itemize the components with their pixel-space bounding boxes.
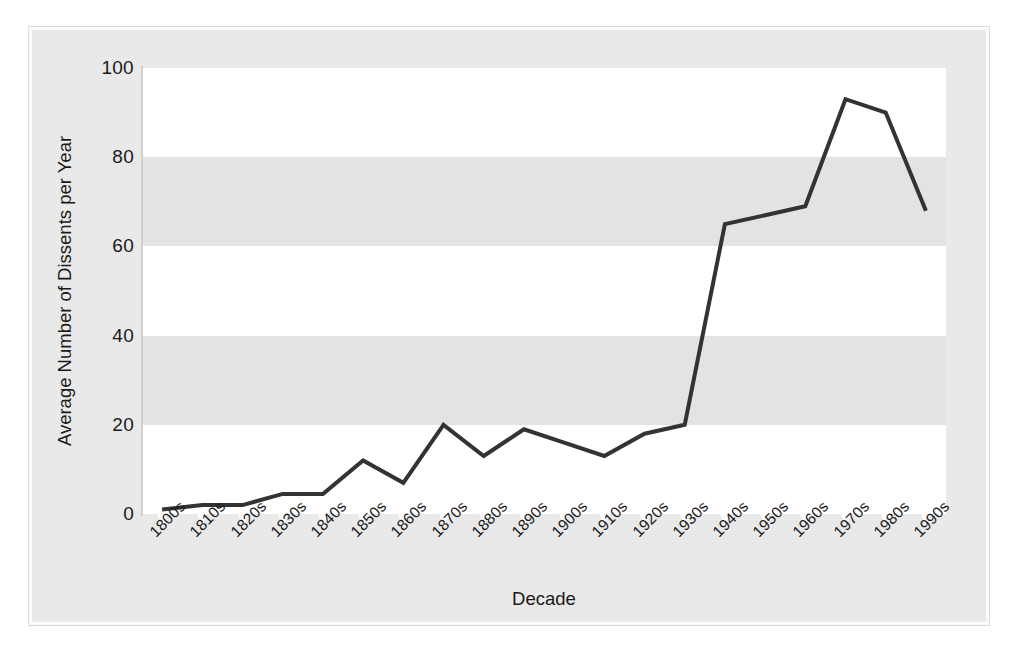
y-tick-label-20: 20 (80, 414, 134, 436)
x-axis-tick-labels: 1800s1810s1820s1830s1840s1850s1860s1870s… (142, 528, 946, 588)
series-polyline (162, 99, 926, 509)
x-axis-title: Decade (142, 588, 946, 610)
y-tick-label-0: 0 (80, 503, 134, 525)
data-series-line (142, 68, 946, 514)
y-axis-title: Average Number of Dissents per Year (52, 68, 78, 514)
y-tick-label-40: 40 (80, 325, 134, 347)
y-tick-label-100: 100 (80, 57, 134, 79)
y-tick-label-80: 80 (80, 146, 134, 168)
chart-screenshot: 020406080100 Average Number of Dissents … (0, 0, 1024, 653)
y-axis-tick-labels: 020406080100 (72, 68, 134, 514)
y-tick-label-60: 60 (80, 235, 134, 257)
